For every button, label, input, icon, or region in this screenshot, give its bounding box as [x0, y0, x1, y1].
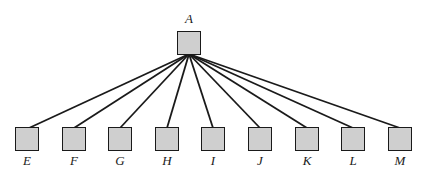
node-f	[62, 127, 86, 151]
node-h	[155, 127, 179, 151]
node-label-f: F	[62, 154, 86, 168]
node-label-e: E	[15, 154, 39, 168]
node-g	[108, 127, 132, 151]
edge-a-e	[29, 54, 189, 128]
node-label-g: G	[108, 154, 132, 168]
node-k	[295, 127, 319, 151]
node-i	[201, 127, 225, 151]
node-label-i: I	[201, 154, 225, 168]
edge-a-m	[189, 54, 400, 128]
node-label-h: H	[155, 154, 179, 168]
node-label-j: J	[248, 154, 272, 168]
node-label-m: M	[388, 154, 412, 168]
node-l	[341, 127, 365, 151]
edge-a-k	[189, 54, 307, 128]
node-e	[15, 127, 39, 151]
node-m	[388, 127, 412, 151]
node-j	[248, 127, 272, 151]
node-label-k: K	[295, 154, 319, 168]
node-label-a: A	[177, 12, 201, 26]
node-label-l: L	[341, 154, 365, 168]
edge-a-l	[189, 54, 353, 128]
node-a	[177, 31, 201, 55]
edge-a-i	[189, 54, 213, 128]
